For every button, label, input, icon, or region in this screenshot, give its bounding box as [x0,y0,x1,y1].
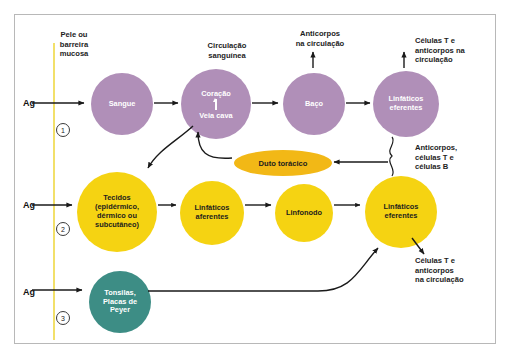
node-linfonodo-label: Linfonodo [284,209,324,218]
node-duto-toracico[interactable]: Duto torácico [234,150,332,176]
annotation-celulas-t-anticorpos-top: Células T e anticorpos na circulação [415,36,493,65]
pathway-number-2: 2 [56,222,70,236]
node-linfaticos-eferentes-top[interactable]: Linfáticos eferentes [373,71,439,137]
barrier-label: Pele ou barreira mucosa [44,30,104,59]
node-tecidos[interactable]: Tecidos (epidérmico, dérmico ou subcutân… [77,172,157,252]
node-linfaticos-eferentes-bottom-label: Linfáticos eferentes [382,203,421,221]
node-linfaticos-aferentes[interactable]: Linfáticos aferentes [180,181,244,245]
node-linfaticos-eferentes-bottom[interactable]: Linfáticos eferentes [365,176,437,248]
node-heart-vena-cava[interactable]: Coração Veia cava [181,69,251,139]
pathway-number-1: 1 [56,123,70,137]
node-baco-label: Baço [303,100,325,109]
node-duto-toracico-label: Duto torácico [259,159,308,168]
node-linfaticos-aferentes-label: Linfáticos aferentes [193,204,232,222]
node-sangue[interactable]: Sangue [91,73,153,135]
mucosal-barrier-line [53,43,55,340]
node-linfonodo[interactable]: Linfonodo [275,184,333,242]
node-vena-cava-label: Veia cava [199,111,232,120]
diagram-canvas: Pele ou barreira mucosa Ag Ag Ag 1 2 3 C… [0,0,512,362]
heart-stack: Coração Veia cava [199,89,232,120]
node-linfaticos-eferentes-top-label: Linfáticos eferentes [387,95,426,113]
pathway-number-3: 3 [56,311,70,325]
node-tonsilas-placas-peyer[interactable]: Tonsilas, Placas de Peyer [89,271,151,333]
node-baco[interactable]: Baço [283,73,345,135]
antigen-label-1: Ag [23,98,35,108]
annotation-anticorpos-circulacao: Anticorpos na circulação [279,29,361,48]
antigen-label-3: Ag [23,287,35,297]
node-tonsilas-label: Tonsilas, Placas de Peyer [101,289,139,315]
annotation-anticorpos-celulas-tb: Anticorpos, células T e células B [415,143,493,172]
annotation-circulacao-sanguinea: Circulação sanguínea [189,41,265,60]
node-heart-label: Coração [201,89,231,98]
diagram-frame: Pele ou barreira mucosa Ag Ag Ag 1 2 3 C… [14,14,496,344]
node-sangue-label: Sangue [107,100,138,109]
node-tecidos-label: Tecidos (epidérmico, dérmico ou subcutân… [93,194,141,229]
up-arrow-icon [215,99,216,110]
antigen-label-2: Ag [23,200,35,210]
annotation-celulas-t-anticorpos-bottom: Células T e anticorpos na circulação [415,256,493,285]
